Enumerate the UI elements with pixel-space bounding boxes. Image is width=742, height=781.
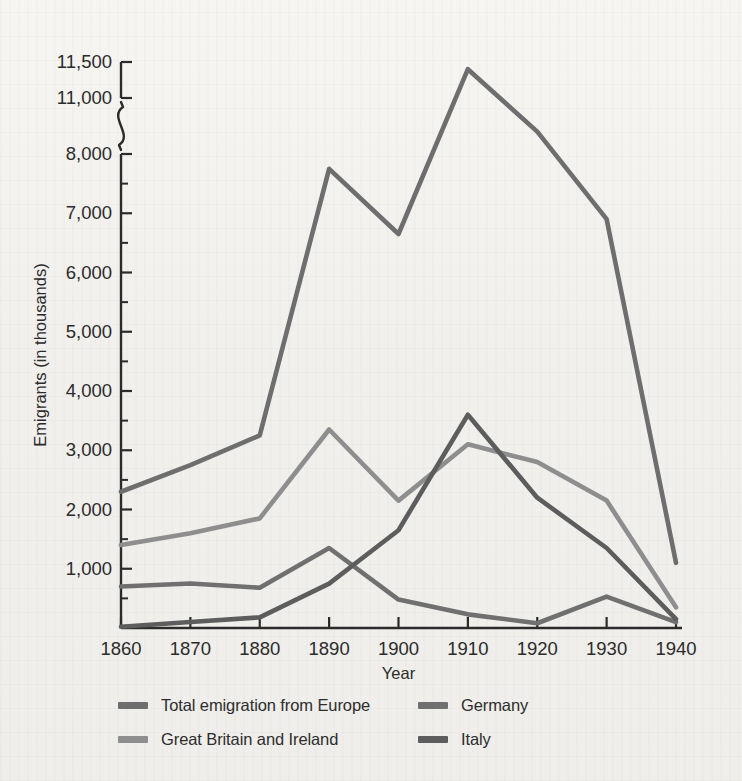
legend-swatch-germany — [418, 702, 448, 709]
legend-label-total-emigration: Total emigration from Europe — [161, 696, 370, 715]
x-axis-title: Year — [382, 664, 416, 682]
legend-swatch-total-emigration — [118, 702, 148, 709]
chart-series-lines — [121, 69, 676, 627]
x-tick-label: 1900 — [378, 638, 419, 659]
emigration-line-chart: 1,0002,0003,0004,0005,0006,0007,0008,000… — [0, 0, 742, 781]
legend-item-total-emigration[interactable]: Total emigration from Europe — [118, 691, 418, 719]
series-line — [121, 69, 676, 563]
chart-legend: Total emigration from Europe Germany Gre… — [118, 688, 678, 758]
x-tick-label: 1920 — [517, 638, 558, 659]
y-tick-label: 4,000 — [66, 380, 112, 401]
legend-item-germany[interactable]: Germany — [418, 691, 678, 719]
x-tick-label: 1930 — [586, 638, 627, 659]
x-axis-tick-labels: 186018701880189019001910192019301940 — [100, 638, 696, 659]
y-tick-label: 2,000 — [66, 499, 112, 520]
series-line — [121, 548, 676, 623]
legend-label-great-britain-and-ireland: Great Britain and Ireland — [161, 730, 338, 749]
y-axis-tick-labels: 1,0002,0003,0004,0005,0006,0007,0008,000… — [57, 51, 112, 579]
y-tick-label: 3,000 — [66, 439, 112, 460]
x-tick-label: 1870 — [170, 638, 211, 659]
legend-label-germany: Germany — [461, 696, 528, 715]
legend-swatch-italy — [418, 736, 448, 743]
series-line — [121, 415, 676, 627]
legend-item-great-britain-and-ireland[interactable]: Great Britain and Ireland — [118, 725, 418, 753]
y-tick-label: 11,500 — [57, 51, 112, 72]
y-tick-label: 1,000 — [66, 558, 112, 579]
series-line — [121, 430, 676, 608]
y-tick-label: 5,000 — [66, 321, 112, 342]
y-tick-label: 7,000 — [66, 202, 112, 223]
legend-label-italy: Italy — [461, 730, 491, 749]
y-axis-title: Emigrants (in thousands) — [31, 263, 49, 446]
y-tick-label: 8,000 — [66, 143, 112, 164]
x-tick-label: 1940 — [655, 638, 696, 659]
x-tick-label: 1890 — [309, 638, 350, 659]
x-tick-label: 1910 — [447, 638, 488, 659]
x-tick-label: 1860 — [100, 638, 141, 659]
y-tick-label: 6,000 — [66, 262, 112, 283]
chart-canvas: 1,0002,0003,0004,0005,0006,0007,0008,000… — [0, 0, 742, 781]
legend-item-italy[interactable]: Italy — [418, 725, 678, 753]
y-axis-break-symbol — [118, 102, 124, 150]
legend-swatch-great-britain-and-ireland — [118, 736, 148, 743]
x-tick-label: 1880 — [239, 638, 280, 659]
y-tick-label: 11,000 — [57, 87, 112, 108]
